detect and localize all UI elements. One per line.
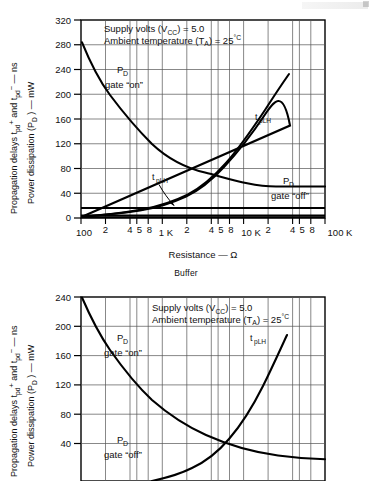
chart-top-ylabel-a7: — ns [9, 62, 19, 86]
chart-bottom-pd-off-sub: D [123, 440, 128, 447]
chart-top-xtick-8c: 8 [309, 224, 314, 235]
chart-top-ytick-280: 280 [55, 39, 71, 50]
chart-top-ytick-120: 120 [55, 138, 71, 149]
chart-bottom-note-supply-suffix: ) = 5.0 [225, 302, 252, 313]
svg-text:Power dissipation (PD ) — mW: Power dissipation (PD ) — mW [26, 81, 38, 204]
chart-top-ytick-40: 40 [60, 188, 71, 199]
datasheet-page: 320 280 240 200 160 120 80 40 0 [0, 0, 372, 481]
chart-top-ytick-320: 320 [55, 15, 71, 26]
chart-bottom-y-axis-titles: Propagation delays tpd+ and tpd− — ns Po… [7, 325, 37, 477]
chart-top-tplh-upper-sub: pLH [259, 117, 271, 125]
chart-top-xtick-4a: 4 [127, 224, 132, 235]
chart-bottom-ylabel-a4: and t [9, 360, 19, 383]
chart-top-tplh-lower-sub: pLH [156, 177, 168, 185]
chart-top-ylabel-b1: Power dissipation (P [26, 122, 36, 204]
chart-top-x-axis-title: Resistance — Ω [169, 249, 238, 260]
chart-bottom-y-axis: 240 200 160 120 80 40 [55, 292, 81, 450]
svg-text:Ambient temperature (TA) = 25°: Ambient temperature (TA) = 25°C [104, 34, 241, 47]
chart-top-note-amb-deg: °C [233, 34, 241, 41]
chart-top-note-amb-prefix: Ambient temperature (T [104, 35, 205, 46]
chart-top-pd-off-sub: D [289, 181, 294, 188]
chart-top-xtick-2a: 2 [103, 224, 108, 235]
chart-bottom-ylabel-b3: ) — mW [26, 344, 36, 380]
chart-top-ytick-160: 160 [55, 114, 71, 125]
chart-bottom-ytick-40: 40 [60, 438, 71, 449]
svg-text:Propagation delays tpd+ and tp: Propagation delays tpd+ and tpd− — ns [7, 325, 21, 477]
chart-bottom-ytick-200: 200 [55, 321, 71, 332]
chart-bottom-note-amb-prefix: Ambient temperature (T [152, 314, 253, 325]
chart-top-x-tick-labels: 100 2 4 5 8 1 K 2 4 5 8 10 K 2 4 5 8 100… [76, 224, 353, 238]
chart-bottom-ylabel-a1: Propagation delays t [9, 394, 19, 477]
chart-top-pd-off-gate: gate “off” [271, 190, 309, 201]
chart-top-y-axis-titles: Propagation delays tpd+ and tpd− — ns Po… [7, 62, 37, 214]
chart-top-note-amb-suffix: ) = 25 [209, 35, 234, 46]
chart-top-xtick-2b: 2 [184, 224, 189, 235]
chart-top-xtick-2c: 2 [265, 224, 270, 235]
chart-bottom-canvas: 240 200 160 120 80 40 P D gate “on” P D [0, 286, 372, 481]
svg-text:Ambient temperature (TA) = 25°: Ambient temperature (TA) = 25°C [152, 313, 289, 326]
chart-top-ytick-240: 240 [55, 64, 71, 75]
svg-text:Power dissipation (PD ) — mW: Power dissipation (PD ) — mW [26, 344, 38, 467]
chart-bottom-pd-on-sub: D [123, 338, 128, 345]
chart-top-ylabel-a1: Propagation delays t [9, 131, 19, 214]
chart-top-xtick-100k: 100 K [328, 227, 353, 238]
chart-bottom-ytick-80: 80 [60, 409, 71, 420]
chart-top-note-supply-prefix: Supply volts (V [104, 23, 168, 34]
chart-top-ylabel-b3: ) — mW [26, 81, 36, 117]
chart-top-xtick-4b: 4 [209, 224, 214, 235]
chart-bottom-ylabel-b1: Power dissipation (P [26, 385, 36, 467]
chart-top-ytick-80: 80 [60, 163, 71, 174]
chart-bottom-pd-off-gate: gate “off” [104, 449, 142, 460]
chart-bottom-ytick-160: 160 [55, 350, 71, 361]
chart-top-ylabel-a4: and t [9, 97, 19, 120]
chart-top-figure: 320 280 240 200 160 120 80 40 0 [0, 0, 372, 268]
chart-top-xtick-8a: 8 [147, 224, 152, 235]
chart-top-note-supply-suffix: ) = 5.0 [177, 23, 204, 34]
chart-top-xtick-8b: 8 [228, 224, 233, 235]
figure-caption-buffer: Buffer [0, 268, 372, 278]
chart-top-xtick-5a: 5 [137, 224, 142, 235]
chart-top-y-axis: 320 280 240 200 160 120 80 40 0 [55, 15, 81, 224]
chart-bottom-pd-on-gate: gate “on” [104, 347, 142, 358]
chart-top-ytick-0: 0 [66, 212, 71, 223]
svg-text:Propagation delays tpd+ and tp: Propagation delays tpd+ and tpd− — ns [7, 62, 21, 214]
chart-top-pd-on-sub: D [123, 70, 128, 77]
chart-top-xtick-100: 100 [76, 227, 92, 238]
chart-bottom-note-supply-prefix: Supply volts (V [152, 302, 216, 313]
chart-top-ytick-200: 200 [55, 89, 71, 100]
chart-top-x-ticks [81, 218, 325, 224]
chart-top-canvas: 320 280 240 200 160 120 80 40 0 [0, 0, 372, 268]
chart-bottom-figure: 240 200 160 120 80 40 P D gate “on” P D [0, 286, 372, 481]
chart-bottom-ylabel-a7: — ns [9, 325, 19, 349]
chart-bottom-note-amb-deg: °C [281, 313, 289, 320]
chart-top-xtick-4c: 4 [290, 224, 295, 235]
chart-bottom-note-amb-suffix: ) = 25 [257, 314, 282, 325]
chart-bottom-ytick-120: 120 [55, 379, 71, 390]
chart-bottom-tplh-sub: pLH [254, 338, 266, 346]
chart-bottom-ytick-240: 240 [55, 292, 71, 303]
chart-top-xtick-1k: 1 K [159, 227, 174, 238]
chart-top-xtick-5b: 5 [218, 224, 223, 235]
chart-top-xtick-5c: 5 [299, 224, 304, 235]
chart-top-xtick-10k: 10 K [241, 227, 261, 238]
chart-top-pd-on-gate: gate “on” [105, 79, 143, 90]
